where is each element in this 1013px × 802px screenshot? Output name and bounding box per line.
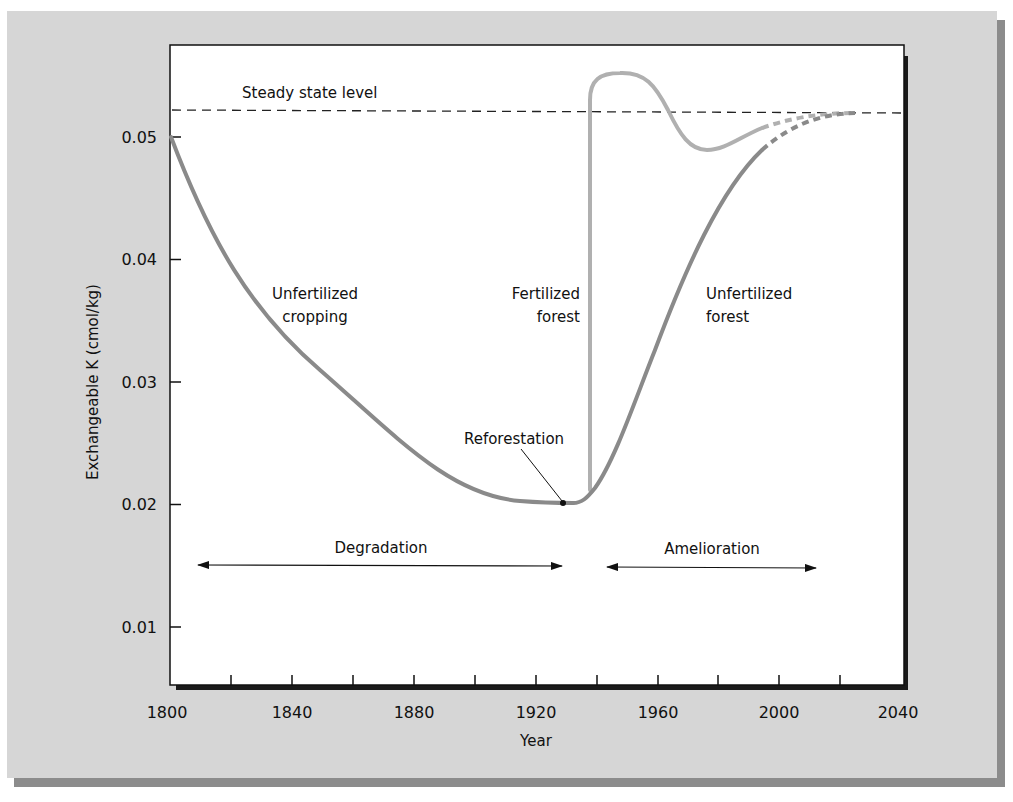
y-tick-label: 0.03 — [121, 373, 157, 392]
x-tick-label: 1920 — [516, 703, 557, 722]
x-tick-label: 1880 — [394, 703, 435, 722]
fertilized-forest-label-line2: forest — [537, 308, 580, 326]
x-axis-title: Year — [519, 732, 553, 750]
y-tick-label: 0.02 — [121, 495, 157, 514]
amelioration-label: Amelioration — [664, 540, 760, 558]
y-tick-label: 0.01 — [121, 618, 157, 637]
unfertilized-cropping-label-line1: Unfertilized — [272, 285, 358, 303]
x-tick-label: 1840 — [272, 703, 313, 722]
unfertilized-cropping-label-line2: cropping — [282, 308, 348, 326]
degradation-label: Degradation — [334, 539, 427, 557]
reforestation-label: Reforestation — [464, 430, 564, 448]
y-tick-label: 0.05 — [121, 128, 157, 147]
unfertilized-forest-label-line2: forest — [706, 308, 749, 326]
y-tick-label: 0.04 — [121, 250, 157, 269]
x-tick-label: 2040 — [878, 703, 919, 722]
figure: 0.05 0.04 0.03 0.02 0.01 1800 1840 1880 … — [0, 0, 1013, 802]
steady-state-label: Steady state level — [242, 84, 377, 102]
x-tick-label: 1960 — [638, 703, 679, 722]
fertilized-forest-label-line1: Fertilized — [512, 285, 580, 303]
x-tick-label: 2000 — [759, 703, 800, 722]
plot-area — [170, 45, 904, 685]
x-tick-label: 1800 — [147, 703, 188, 722]
unfertilized-forest-label-line1: Unfertilized — [706, 285, 792, 303]
y-axis-title: Exchangeable K (cmol/kg) — [84, 284, 102, 480]
reforestation-point — [560, 500, 566, 506]
